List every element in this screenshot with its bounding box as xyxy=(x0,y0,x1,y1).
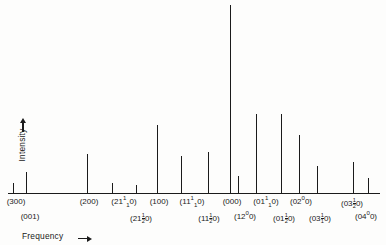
spectrum-stick xyxy=(353,162,354,193)
x-tick-label: (01110) xyxy=(253,198,278,206)
stick-spectrum-figure: Intensity Frequency (300)(200)(21110)(10… xyxy=(0,0,386,245)
x-axis-label: Frequency xyxy=(22,231,63,241)
x-tick-label: (03120) xyxy=(341,198,363,210)
x-axis-baseline xyxy=(8,193,380,194)
x-tick-label: (300) xyxy=(7,198,26,206)
x-tick-label: (11110) xyxy=(180,198,205,206)
spectrum-stick xyxy=(256,114,257,193)
plot-area xyxy=(0,0,386,200)
x-tick-label: (0400) xyxy=(355,213,377,221)
x-tick-label: (0200) xyxy=(290,198,312,206)
spectrum-stick xyxy=(368,178,369,194)
x-tick-label: (21120) xyxy=(130,213,152,225)
x-tick-label: (001) xyxy=(21,213,40,221)
spectrum-stick xyxy=(181,156,182,193)
y-axis: Intensity xyxy=(8,118,34,194)
x-tick-label: (11120) xyxy=(198,213,219,225)
right-arrow-icon xyxy=(78,236,94,242)
spectrum-stick xyxy=(230,5,231,193)
spectrum-stick xyxy=(281,114,282,193)
spectrum-stick xyxy=(208,152,209,193)
spectrum-stick xyxy=(136,185,137,193)
spectrum-stick xyxy=(299,135,300,193)
spectrum-stick xyxy=(317,166,318,193)
spectrum-stick xyxy=(112,183,113,193)
x-tick-label: (1200) xyxy=(234,213,256,221)
spectrum-stick xyxy=(87,154,88,193)
x-tick-label: (03110) xyxy=(309,213,331,225)
x-tick-label: (100) xyxy=(150,198,169,206)
x-tick-label: (01120) xyxy=(273,213,295,225)
spectrum-stick xyxy=(157,125,158,193)
x-tick-label: (200) xyxy=(80,198,99,206)
x-tick-label: (000) xyxy=(223,198,242,206)
x-tick-label: (21110) xyxy=(111,198,136,206)
spectrum-stick xyxy=(238,176,239,193)
y-axis-label: Intensity xyxy=(17,117,27,173)
